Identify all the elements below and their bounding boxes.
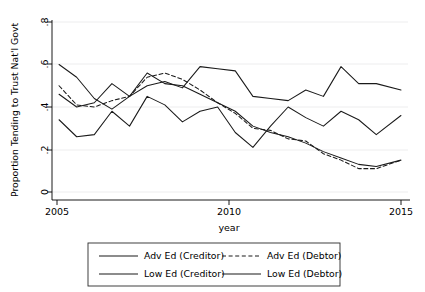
x-tick-label-2010: 2010 — [217, 206, 241, 217]
x-tick-label-2015: 2015 — [389, 206, 413, 217]
x-axis: 2005 2010 2015 year — [45, 200, 413, 233]
y-axis: .8 .6 .4 .2 0 Proportion Tending to Trus… — [9, 17, 53, 200]
chart-figure: .8 .6 .4 .2 0 Proportion Tending to Trus… — [0, 0, 425, 292]
y-axis-title: Proportion Tending to Trust Nat'l Govt — [9, 23, 20, 197]
y-tick-label-0.0: 0 — [39, 189, 50, 195]
x-axis-title: year — [218, 222, 239, 233]
y-tick-label-0.6: .6 — [39, 59, 50, 68]
legend-label-low-ed-creditor: Low Ed (Creditor) — [144, 268, 225, 279]
y-tick-label-0.8: .8 — [39, 17, 50, 26]
series-line-adv-ed-debtor — [59, 73, 401, 169]
line-chart-svg: .8 .6 .4 .2 0 Proportion Tending to Trus… — [0, 0, 425, 292]
y-tick-label-0.2: .2 — [39, 145, 50, 154]
series-group — [59, 65, 401, 169]
y-tick-label-0.4: .4 — [39, 102, 50, 111]
legend-label-low-ed-debtor: Low Ed (Debtor) — [267, 268, 342, 279]
legend: Adv Ed (Creditor) Adv Ed (Debtor) Low Ed… — [88, 243, 342, 286]
x-tick-label-2005: 2005 — [45, 206, 69, 217]
legend-label-adv-ed-creditor: Adv Ed (Creditor) — [144, 250, 224, 261]
series-line-low-ed-debtor — [59, 96, 401, 147]
legend-label-adv-ed-debtor: Adv Ed (Debtor) — [267, 250, 341, 261]
